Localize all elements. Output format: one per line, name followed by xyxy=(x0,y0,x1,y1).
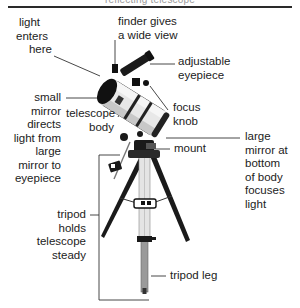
label-line: mirror at xyxy=(245,144,288,158)
label-line: eyepiece xyxy=(178,69,230,83)
label-line: tripod leg xyxy=(170,269,217,283)
label-line: adjustable xyxy=(178,55,230,69)
label-line: enters xyxy=(10,30,52,44)
label-line: telescope xyxy=(30,235,86,249)
label-line: large xyxy=(0,145,61,159)
label-line: bottom xyxy=(245,157,288,171)
label-line: light xyxy=(245,198,288,212)
label-line: knob xyxy=(173,115,201,129)
label-line: large xyxy=(245,130,288,144)
label-line: a wide view xyxy=(118,29,177,43)
label-focus-knob: focus knob xyxy=(173,101,201,128)
label-finder: finder gives a wide view xyxy=(118,15,177,42)
label-line: telescope xyxy=(66,107,114,121)
label-line: focuses xyxy=(245,184,288,198)
label-light-enters: light enters here xyxy=(10,16,52,57)
label-line: light from xyxy=(0,132,61,146)
label-line: eyepiece xyxy=(0,172,61,186)
label-small-mirror: small mirror directs light from large mi… xyxy=(0,91,61,186)
label-eyepiece: adjustable eyepiece xyxy=(178,55,230,82)
label-line: here xyxy=(10,43,52,57)
label-line: body xyxy=(66,121,114,135)
label-line: focus xyxy=(173,101,201,115)
label-line: mirror to xyxy=(0,159,61,173)
label-line: tripod xyxy=(30,208,86,222)
label-line: steady xyxy=(30,249,86,263)
label-telescope-body: telescope body xyxy=(66,107,114,134)
label-line: mount xyxy=(174,142,206,156)
label-mount: mount xyxy=(174,142,206,156)
label-line: small xyxy=(0,91,61,105)
label-line: light xyxy=(10,16,52,30)
label-line: directs xyxy=(0,118,61,132)
label-line: finder gives xyxy=(118,15,177,29)
label-line: mirror xyxy=(0,105,61,119)
label-line: of body xyxy=(245,171,288,185)
label-line: holds xyxy=(30,222,86,236)
label-tripod: tripod holds telescope steady xyxy=(30,208,86,262)
label-large-mirror: large mirror at bottom of body focuses l… xyxy=(245,130,288,211)
label-tripod-leg: tripod leg xyxy=(170,269,217,283)
